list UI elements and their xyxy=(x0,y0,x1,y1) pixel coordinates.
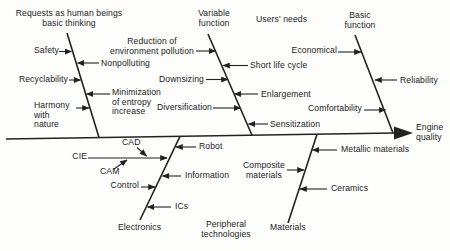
label-robot: Robot xyxy=(199,142,222,152)
label-economical: Economical xyxy=(292,46,337,56)
heading-peripheral-technologies: Peripheral technologies xyxy=(196,220,256,239)
label-reduction: Reduction of environment pollution xyxy=(109,37,195,56)
fishbone-diagram: Requests as human beings basic thinking … xyxy=(0,0,450,251)
label-recyclability: Recyclability xyxy=(19,75,68,85)
spine-line xyxy=(6,133,394,139)
heading-variable-function: Variable function xyxy=(191,9,237,28)
label-diversification: Diversification xyxy=(157,103,212,113)
label-ics: ICs xyxy=(175,202,188,212)
arrow-cad xyxy=(137,148,147,157)
label-enlargement: Enlargement xyxy=(261,90,311,100)
label-control: Control xyxy=(111,181,139,191)
label-entropy: Minimization of entropy increase xyxy=(112,88,161,117)
label-nonpolluting: Nonpolluting xyxy=(101,59,150,69)
heading-users-needs: Users' needs xyxy=(256,15,307,25)
label-sensitization: Sensitization xyxy=(270,120,320,130)
label-safety: Safety xyxy=(34,46,59,56)
label-cam: CAM xyxy=(100,167,119,177)
bone-requests-line xyxy=(67,33,99,138)
label-information: Information xyxy=(185,171,229,181)
spine-arrowhead xyxy=(394,127,413,140)
label-comfortability: Comfortability xyxy=(308,104,362,114)
bone-variable-function-line xyxy=(208,34,252,135)
label-short-life-cycle: Short life cycle xyxy=(250,61,307,71)
bone-basic-function-line xyxy=(355,35,393,133)
label-cie: CIE xyxy=(72,152,87,162)
heading-requests: Requests as human beings basic thinking xyxy=(8,9,130,28)
label-ceramics: Ceramics xyxy=(331,184,368,194)
bone-materials-line xyxy=(288,134,317,223)
heading-electronics: Electronics xyxy=(118,223,161,233)
label-harmony: Harmony with nature xyxy=(34,101,70,130)
heading-materials: Materials xyxy=(270,223,306,233)
label-composite: Composite materials xyxy=(241,161,287,180)
label-reliability: Reliability xyxy=(400,76,438,86)
label-cad: CAD xyxy=(122,138,140,148)
effect-label: Engine quality xyxy=(416,123,443,142)
heading-basic-function: Basic function xyxy=(340,11,380,30)
label-downsizing: Downsizing xyxy=(159,75,204,85)
label-metallic: Metallic materials xyxy=(341,145,409,155)
